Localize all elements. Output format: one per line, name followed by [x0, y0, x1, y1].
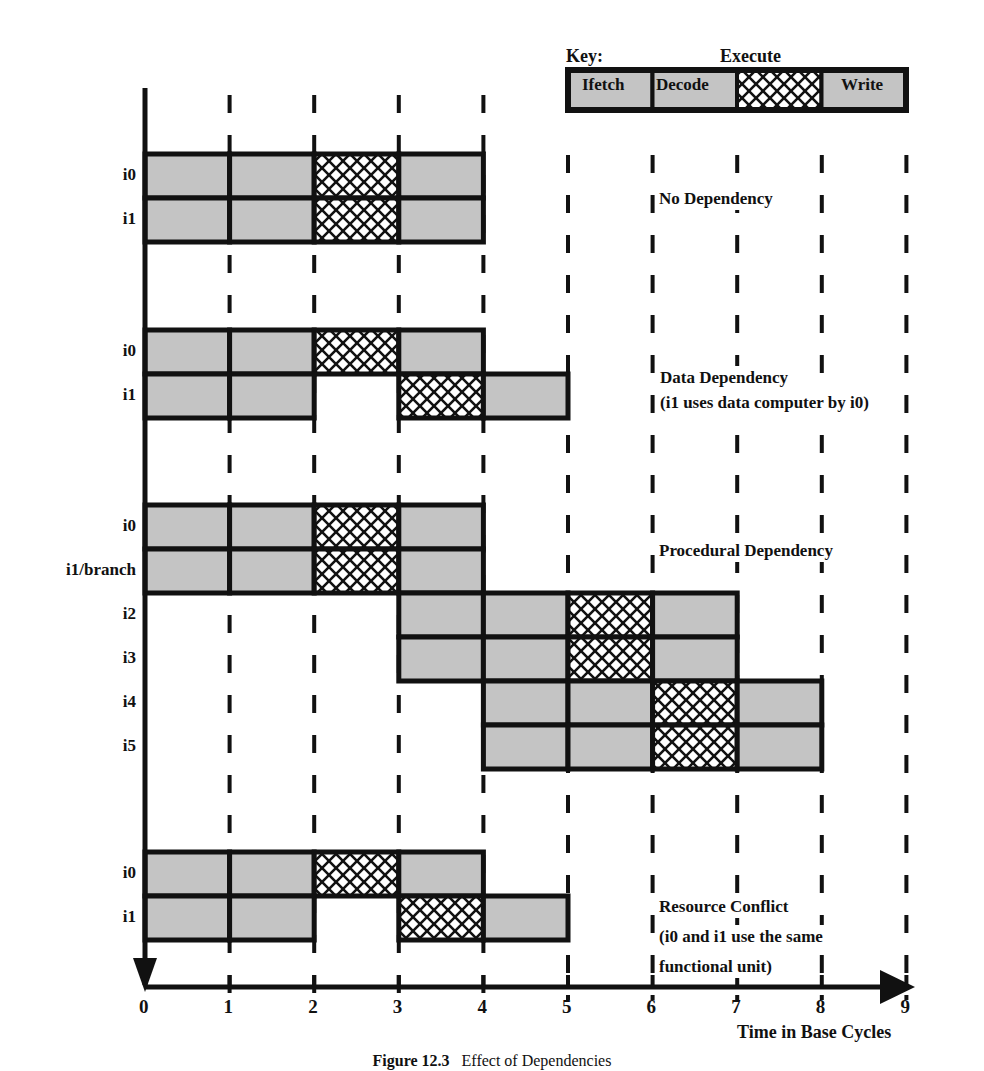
- stage-write: [483, 896, 568, 940]
- stage-write: [399, 154, 484, 198]
- stage-ifetch: [145, 852, 230, 896]
- stage-execute: [314, 198, 399, 242]
- scenario-title-data-dependency: Data Dependency: [658, 366, 790, 389]
- stage-execute: [653, 681, 738, 725]
- instruction-row: [145, 852, 483, 896]
- stage-write: [483, 374, 568, 418]
- x-tick-label: 7: [731, 996, 741, 1018]
- stage-execute: [568, 593, 653, 637]
- instruction-row: [145, 896, 568, 940]
- instruction-label: i1: [16, 907, 136, 927]
- scenario-title-resource-conflict: Resource Conflict: [657, 895, 791, 918]
- instruction-row: [399, 593, 737, 637]
- instruction-row: [145, 330, 483, 374]
- instruction-label: i2: [16, 604, 136, 624]
- stage-decode: [230, 505, 315, 549]
- stage-write: [653, 637, 738, 681]
- stage-decode: [230, 198, 315, 242]
- stage-ifetch: [483, 681, 568, 725]
- key-decode-label: Decode: [656, 75, 709, 95]
- x-tick-label: 9: [900, 996, 910, 1018]
- key-write-label: Write: [841, 75, 883, 95]
- stage-write: [399, 852, 484, 896]
- scenario-data-dependency: [145, 330, 568, 418]
- instruction-label: i5: [16, 736, 136, 756]
- diagram-canvas: [0, 0, 984, 1071]
- stage-ifetch: [399, 593, 484, 637]
- instruction-row: [145, 154, 483, 198]
- x-tick-label: 0: [139, 996, 149, 1018]
- stage-ifetch: [145, 374, 230, 418]
- x-tick-label: 6: [647, 996, 657, 1018]
- stage-execute: [399, 374, 484, 418]
- instruction-label: i0: [16, 341, 136, 361]
- stage-decode: [483, 637, 568, 681]
- stage-write: [737, 725, 822, 769]
- stage-execute: [568, 637, 653, 681]
- stage-ifetch: [145, 505, 230, 549]
- stage-ifetch: [145, 549, 230, 593]
- stage-decode: [230, 330, 315, 374]
- scenario-subtitle2-resource-conflict: functional unit): [657, 955, 774, 978]
- instruction-row: [483, 725, 821, 769]
- figure-title: Effect of Dependencies: [462, 1052, 612, 1069]
- instruction-label: i1: [16, 209, 136, 229]
- stage-ifetch: [145, 154, 230, 198]
- x-tick-label: 1: [224, 996, 234, 1018]
- instruction-label: i0: [16, 863, 136, 883]
- stage-execute: [314, 505, 399, 549]
- stage-ifetch: [145, 198, 230, 242]
- key-title: Key:: [566, 46, 603, 67]
- stage-write: [653, 593, 738, 637]
- stage-execute: [314, 330, 399, 374]
- stage-write: [737, 681, 822, 725]
- key-ifetch-label: Ifetch: [582, 75, 624, 95]
- stage-execute: [314, 549, 399, 593]
- x-tick-label: 8: [816, 996, 826, 1018]
- instruction-row: [145, 549, 483, 593]
- figure-number: Figure 12.3: [373, 1052, 450, 1069]
- pipeline-dependency-diagram: i0i1i0i1i0i1/branchi2i3i4i5i0i1 Key: Exe…: [0, 0, 984, 1071]
- key-swatch-execute: [737, 70, 822, 110]
- stage-execute: [653, 725, 738, 769]
- stage-ifetch: [145, 330, 230, 374]
- x-tick-label: 3: [393, 996, 403, 1018]
- stage-ifetch: [399, 637, 484, 681]
- stage-write: [399, 505, 484, 549]
- instruction-label: i0: [16, 165, 136, 185]
- instruction-label: i0: [16, 516, 136, 536]
- instruction-row: [145, 505, 483, 549]
- stage-write: [399, 549, 484, 593]
- instruction-label: i3: [16, 648, 136, 668]
- x-tick-label: 5: [562, 996, 572, 1018]
- instruction-label: i4: [16, 692, 136, 712]
- scenario-resource-conflict: [145, 852, 568, 940]
- stage-ifetch: [483, 725, 568, 769]
- stage-execute: [314, 852, 399, 896]
- stage-execute: [314, 154, 399, 198]
- stage-decode: [230, 549, 315, 593]
- stage-decode: [230, 154, 315, 198]
- instruction-row: [399, 637, 737, 681]
- stage-decode: [568, 725, 653, 769]
- instruction-label: i1/branch: [16, 560, 136, 580]
- figure-caption: Figure 12.3 Effect of Dependencies: [0, 1052, 984, 1070]
- x-tick-label: 4: [477, 996, 487, 1018]
- scenario-title-procedural-dependency: Procedural Dependency: [657, 539, 835, 562]
- x-axis-label: Time in Base Cycles: [737, 1022, 891, 1043]
- stage-execute: [399, 896, 484, 940]
- scenario-subtitle-data-dependency: (i1 uses data computer by i0): [658, 391, 871, 414]
- scenario-title-no-dependency: No Dependency: [657, 187, 775, 210]
- instruction-label: i1: [16, 385, 136, 405]
- scenario-subtitle-resource-conflict: (i0 and i1 use the same: [657, 925, 825, 948]
- instruction-row: [483, 681, 821, 725]
- stage-ifetch: [145, 896, 230, 940]
- scenario-no-dependency: [145, 154, 483, 242]
- stage-write: [399, 330, 484, 374]
- stage-decode: [230, 374, 315, 418]
- instruction-row: [145, 198, 483, 242]
- stage-decode: [483, 593, 568, 637]
- key-execute-label: Execute: [720, 46, 781, 67]
- instruction-row: [145, 374, 568, 418]
- stage-decode: [230, 896, 315, 940]
